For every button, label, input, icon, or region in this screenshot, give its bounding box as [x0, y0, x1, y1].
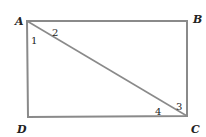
geometry-diagram: A B C D 1 2 3 4 — [0, 0, 206, 137]
angle-label-1: 1 — [31, 35, 37, 46]
angle-label-4: 4 — [155, 106, 161, 117]
angle-label-2: 2 — [52, 27, 58, 38]
vertex-label-b: B — [192, 13, 202, 26]
diagonal-ac — [27, 21, 187, 116]
angle-label-3: 3 — [176, 101, 182, 112]
vertex-label-c: C — [191, 123, 200, 136]
vertex-label-d: D — [16, 123, 27, 136]
vertex-label-a: A — [14, 15, 24, 28]
